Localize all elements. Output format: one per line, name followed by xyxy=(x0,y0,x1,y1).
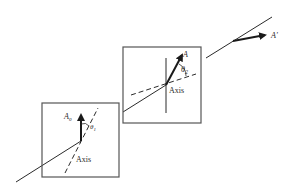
polarizer-2-axis-label: Axis xyxy=(169,86,184,95)
a-prime-label: A' xyxy=(270,31,278,40)
a-amplitude-arrow xyxy=(166,55,182,85)
a-label: A xyxy=(182,50,188,59)
transmitted-beam xyxy=(206,17,272,58)
intermediate-beam xyxy=(123,85,166,112)
polarizer-2-axis-line xyxy=(131,74,196,95)
theta1-angle-arc xyxy=(81,123,89,126)
theta1-label: θ1 xyxy=(90,123,96,132)
polarizer-1-axis-label: Axis xyxy=(76,155,91,164)
incident-beam xyxy=(16,141,81,182)
polarizer-diagram: A0 θ1 Axis A θ2 Axis A' xyxy=(0,0,296,191)
a0-label: A0 xyxy=(63,112,72,122)
theta2-label: θ2 xyxy=(181,65,188,75)
